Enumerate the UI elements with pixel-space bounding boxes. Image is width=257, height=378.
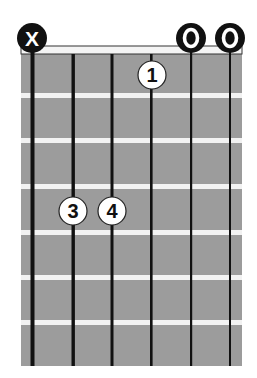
fret-5 — [21, 275, 242, 280]
finger-number: 3 — [67, 200, 78, 222]
fret-1 — [21, 93, 242, 98]
finger-dot-3: 3 — [59, 197, 87, 225]
fretboard — [21, 54, 242, 366]
fret-6 — [21, 320, 242, 325]
nut — [21, 46, 242, 54]
open-string-icon — [176, 23, 206, 53]
muted-symbol: X — [25, 27, 39, 50]
finger-number: 4 — [106, 200, 118, 222]
fret-4 — [21, 230, 242, 235]
chord-diagram: X 1 3 4 — [0, 0, 257, 378]
finger-dot-4: 4 — [98, 197, 126, 225]
string-5 — [190, 46, 192, 366]
muted-marker-string-1: X — [17, 23, 47, 53]
string-1 — [31, 46, 35, 366]
finger-number: 1 — [146, 64, 157, 86]
open-marker-string-5 — [176, 23, 206, 53]
open-string-icon — [215, 23, 245, 53]
fret-3 — [21, 184, 242, 189]
string-4 — [150, 54, 153, 366]
open-marker-string-6 — [215, 23, 245, 53]
string-6 — [229, 46, 231, 366]
fret-2 — [21, 138, 242, 143]
finger-dot-1: 1 — [138, 61, 166, 89]
